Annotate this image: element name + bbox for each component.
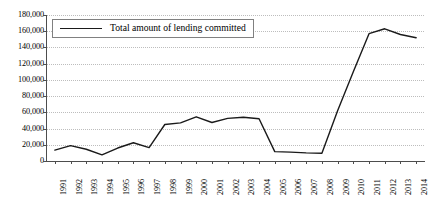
y-axis-labels: 180,000160,000140,000120,000100,00080,00… [0, 0, 44, 198]
y-tick-label: 60,000 [0, 108, 44, 116]
y-tick-label: 100,000 [0, 76, 44, 84]
x-tick-label: 1996 [137, 185, 147, 195]
x-tick-label: 2000 [200, 185, 210, 195]
x-tick-label: 1997 [153, 185, 163, 195]
x-tick-mark [71, 161, 72, 164]
x-tick-mark [306, 161, 307, 164]
x-tick-label: 2011 [373, 185, 383, 195]
x-tick-label: 1992 [75, 185, 85, 195]
x-tick-label: 2012 [389, 185, 399, 195]
x-tick-label: 2008 [326, 185, 336, 195]
x-tick-label: 1991 [59, 185, 69, 195]
legend-line-swatch [60, 28, 102, 29]
x-tick-mark [385, 161, 386, 164]
x-tick-label: 2001 [216, 185, 226, 195]
x-tick-mark [369, 161, 370, 164]
x-tick-mark [416, 161, 417, 164]
legend-label: Total amount of lending committed [110, 23, 246, 33]
x-tick-label: 1999 [185, 185, 195, 195]
x-tick-mark [400, 161, 401, 164]
y-tick-label: 160,000 [0, 27, 44, 35]
x-tick-mark [290, 161, 291, 164]
x-tick-mark [55, 161, 56, 164]
x-tick-mark [181, 161, 182, 164]
x-tick-label: 2004 [263, 185, 273, 195]
y-tick-label: 80,000 [0, 92, 44, 100]
x-tick-label: 1994 [106, 185, 116, 195]
x-tick-label: 1995 [122, 185, 132, 195]
y-tick-label: 0 [0, 157, 44, 165]
y-tick-label: 120,000 [0, 60, 44, 68]
x-tick-mark [338, 161, 339, 164]
x-tick-label: 2002 [232, 185, 242, 195]
x-tick-mark [86, 161, 87, 164]
x-tick-mark [165, 161, 166, 164]
x-tick-label: 2006 [294, 185, 304, 195]
x-tick-mark [243, 161, 244, 164]
y-tick-label: 180,000 [0, 11, 44, 19]
y-tick-label: 20,000 [0, 141, 44, 149]
y-tick-label: 40,000 [0, 125, 44, 133]
x-tick-label: 2009 [342, 185, 352, 195]
x-tick-mark [102, 161, 103, 164]
x-tick-mark [133, 161, 134, 164]
x-tick-label: 2007 [310, 185, 320, 195]
x-tick-label: 2010 [357, 185, 367, 195]
x-tick-mark [149, 161, 150, 164]
x-tick-mark [228, 161, 229, 164]
x-tick-label: 2003 [247, 185, 257, 195]
x-tick-mark [353, 161, 354, 164]
x-tick-label: 2014 [420, 185, 430, 195]
y-tick-label: 140,000 [0, 43, 44, 51]
line-chart: 180,000160,000140,000120,000100,00080,00… [0, 0, 431, 198]
x-tick-label: 2013 [404, 185, 414, 195]
x-tick-mark [196, 161, 197, 164]
x-tick-mark [259, 161, 260, 164]
x-tick-label: 1998 [169, 185, 179, 195]
series-line-total-lending [55, 29, 416, 155]
x-tick-label: 2005 [279, 185, 289, 195]
x-tick-mark [118, 161, 119, 164]
x-tick-mark [322, 161, 323, 164]
x-tick-mark [212, 161, 213, 164]
x-tick-label: 1993 [90, 185, 100, 195]
x-tick-mark [275, 161, 276, 164]
legend: Total amount of lending committed [52, 19, 254, 38]
